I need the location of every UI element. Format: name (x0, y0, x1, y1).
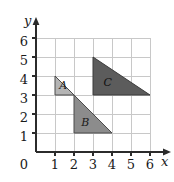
y-tick-label-2: 2 (18, 111, 30, 124)
origin-label: 0 (18, 158, 30, 171)
y-tick-label-4: 4 (18, 73, 30, 86)
y-tick-label-3: 3 (18, 92, 30, 105)
x-tick-label-3: 3 (87, 158, 99, 171)
y-tick-label-1: 1 (18, 130, 30, 143)
y-axis-arrowhead (33, 17, 40, 25)
x-tick-label-2: 2 (68, 158, 80, 171)
triangle-label-c: C (103, 77, 111, 88)
y-tick-label-5: 5 (18, 54, 30, 67)
x-axis-label: x (161, 155, 168, 168)
y-axis-label: y (24, 14, 31, 27)
y-tick-label-6: 6 (18, 35, 30, 48)
x-tick-label-5: 5 (125, 158, 137, 171)
x-tick-label-6: 6 (144, 158, 156, 171)
triangle-label-a: A (59, 80, 67, 91)
shape-layer (55, 57, 150, 133)
coordinate-grid-figure: 6 5 4 3 2 1 0 1 2 3 4 5 6 y x A B C (0, 0, 174, 182)
triangle-label-b: B (81, 117, 89, 128)
x-tick-label-4: 4 (106, 158, 118, 171)
x-tick-label-1: 1 (49, 158, 61, 171)
